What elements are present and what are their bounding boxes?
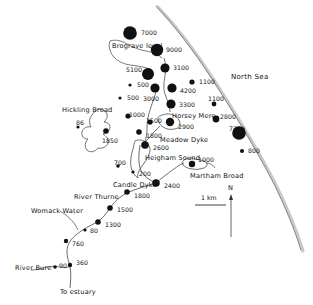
place-label-to-estuary: To estuary	[60, 289, 96, 296]
site-dot	[103, 128, 109, 134]
site-dot	[131, 170, 134, 173]
site-dot	[123, 26, 137, 40]
place-label-river-thurne: River Thurne	[74, 194, 119, 201]
site-dot	[118, 96, 121, 99]
site-value-label: 5100	[126, 67, 142, 73]
site-value-label: 500	[127, 95, 139, 101]
site-dot	[53, 265, 57, 269]
place-label-candle-dyke: Candle Dyke	[113, 182, 157, 189]
place-label-heigham-sound: Heigham Sound	[145, 155, 200, 162]
site-value-label: 2600	[153, 145, 169, 151]
site-dot	[68, 263, 72, 267]
site-value-label: 4200	[180, 88, 196, 94]
north-arrow-label: N	[228, 185, 233, 192]
site-dot	[128, 83, 131, 86]
site-dot	[107, 205, 113, 211]
site-dot	[136, 129, 142, 135]
site-dot	[141, 141, 149, 149]
site-dot	[212, 102, 217, 107]
site-dot	[142, 68, 154, 80]
map-figure: 7000900051003100500110030004200500330011…	[0, 0, 313, 305]
site-value-label: 3000	[143, 96, 159, 102]
site-value-label: 1500	[146, 118, 162, 124]
river-thurne-channel	[67, 145, 156, 288]
site-value-label: 700	[114, 160, 126, 166]
site-dot	[150, 83, 159, 92]
site-dot	[189, 79, 194, 84]
site-dot	[83, 228, 86, 231]
site-value-label: 360	[76, 260, 88, 266]
site-value-label: 1800	[134, 193, 150, 199]
place-label-horsey-mere: Horsey Mere	[172, 113, 216, 120]
site-value-label: 1000	[129, 112, 145, 118]
place-label-river-bure: River Bure	[15, 265, 52, 272]
site-value-label: 1300	[105, 222, 121, 228]
site-dot	[167, 83, 176, 92]
site-value-label: 9000	[166, 47, 182, 53]
martham-link-channel	[156, 163, 184, 183]
scale-bar-label: 1 km	[201, 195, 217, 201]
site-value-label: 80	[90, 228, 98, 234]
site-dot	[160, 63, 169, 72]
place-label-martham-broad: Martham Broad	[190, 173, 244, 180]
site-value-label: 2400	[164, 183, 180, 189]
site-value-label: 2900	[178, 124, 194, 130]
site-dot	[64, 239, 68, 243]
north-arrow	[229, 194, 233, 237]
site-dot	[240, 149, 244, 153]
site-dot	[166, 99, 175, 108]
site-value-label: 1850	[102, 138, 118, 144]
site-value-label: 3300	[179, 102, 195, 108]
place-label-hickling-broad: Hickling Broad	[62, 107, 113, 114]
site-dot	[124, 189, 130, 195]
site-value-label: 800	[248, 148, 260, 154]
site-value-label: 760	[72, 241, 84, 247]
place-label-meadow-dyke: Meadow Dyke	[160, 137, 208, 144]
site-value-label: 1100	[199, 79, 215, 85]
site-dot	[95, 219, 101, 225]
site-value-label: 2800	[220, 114, 236, 120]
site-value-label: 7000	[141, 30, 157, 36]
site-value-label: 3100	[173, 65, 189, 71]
site-value-label: 500	[137, 82, 149, 88]
site-value-label: 1000	[198, 157, 214, 163]
place-label-brograve-level: Brograve level	[112, 43, 163, 50]
place-label-womack-water: Womack Water	[31, 208, 83, 215]
site-value-label: 7200	[229, 126, 245, 132]
site-value-label: 200	[139, 171, 151, 177]
site-value-label: 1100	[208, 96, 224, 102]
site-value-label: 1500	[117, 207, 133, 213]
place-label-north-sea: North Sea	[231, 74, 269, 81]
site-value-label: 86	[76, 120, 84, 126]
site-value-label: 90	[59, 263, 67, 269]
